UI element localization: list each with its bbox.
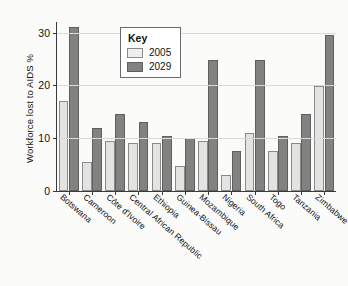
bar-2029-mozambique (208, 60, 218, 191)
bar-2029-tanzania (301, 114, 311, 191)
bar-2005-south-africa (245, 133, 255, 191)
y-gridline (57, 138, 336, 139)
bar-2029-c-te-d-ivoire (115, 114, 125, 191)
plot-area: 0102030 (56, 22, 336, 192)
bar-2029-guinea-bissau (185, 138, 195, 191)
bar-2005-central-african-republic (128, 143, 138, 191)
y-gridline (57, 85, 336, 86)
bar-2029-cameroon (92, 128, 102, 191)
bar-2029-central-african-republic (139, 122, 149, 191)
bar-chart-figure: Workforce lost to AIDS % 0102030 Botswan… (0, 0, 348, 286)
bar-2029-nigeria (232, 151, 242, 191)
y-tick-mark (53, 33, 57, 34)
legend-title: Key (128, 32, 171, 44)
bar-2029-zimbabwe (325, 35, 335, 191)
y-tick-label: 0 (44, 185, 50, 197)
y-tick-label: 30 (38, 27, 50, 39)
bar-2029-togo (278, 136, 288, 191)
bar-2005-nigeria (221, 175, 231, 191)
y-gridline (57, 33, 336, 34)
y-tick-label: 10 (38, 132, 50, 144)
bars-layer (57, 22, 336, 191)
bar-2005-tanzania (291, 143, 301, 191)
y-tick-mark (53, 138, 57, 139)
x-axis-category-labels: BotswanaCameroonCôte d'IvoireCentral Afr… (56, 192, 346, 286)
bar-2029-botswana (69, 27, 79, 191)
legend-label-2005: 2005 (149, 47, 171, 58)
legend-label-2029: 2029 (149, 61, 171, 72)
legend-entry-2029: 2029 (127, 61, 171, 72)
bar-2005-cameroon (82, 162, 92, 191)
y-tick-mark (53, 85, 57, 86)
legend-swatch-icon-2005 (127, 48, 143, 58)
x-category-label: Zimbabwe (314, 192, 348, 226)
bar-2005-botswana (59, 101, 69, 191)
y-tick-label: 20 (38, 79, 50, 91)
legend-entry-2005: 2005 (127, 47, 171, 58)
legend-swatch-icon-2029 (127, 62, 143, 72)
y-axis-title: Workforce lost to AIDS % (24, 14, 35, 204)
bar-2005-c-te-d-ivoire (105, 141, 115, 191)
bar-2005-mozambique (198, 141, 208, 191)
bar-2005-guinea-bissau (175, 166, 185, 191)
bar-2029-south-africa (255, 60, 265, 191)
chart-legend: Key 2005 2029 (120, 27, 181, 78)
bar-2029-ethiopia (162, 136, 172, 191)
bar-2005-ethiopia (152, 143, 162, 191)
bar-2005-togo (268, 151, 278, 191)
